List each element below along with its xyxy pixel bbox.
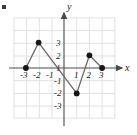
coordinate-plane-svg <box>0 0 137 135</box>
x-tick-label-1: 1 <box>74 71 79 80</box>
x-tick-label-neg1: -1 <box>46 71 54 80</box>
y-axis <box>62 13 67 126</box>
data-point <box>74 91 80 97</box>
x-tick-label-neg2: -2 <box>33 71 41 80</box>
y-tick-label-3: 3 <box>56 39 61 48</box>
graph-figure: -3 -2 -1 1 2 3 3 2 1 -1 -2 -3 x y <box>0 0 137 135</box>
x-tick-label-2: 2 <box>87 71 92 80</box>
x-tick-label-neg3: -3 <box>20 71 28 80</box>
data-point <box>87 52 93 58</box>
y-tick-label-1: 1 <box>56 64 61 73</box>
y-tick-label-neg3: -3 <box>54 102 62 111</box>
y-tick-label-2: 2 <box>56 52 61 61</box>
x-axis-label: x <box>125 63 129 73</box>
data-point <box>36 40 42 46</box>
y-tick-label-neg2: -2 <box>54 89 62 98</box>
y-axis-label: y <box>67 2 71 12</box>
y-tick-label-neg1: -1 <box>54 77 62 86</box>
x-tick-label-3: 3 <box>99 71 104 80</box>
